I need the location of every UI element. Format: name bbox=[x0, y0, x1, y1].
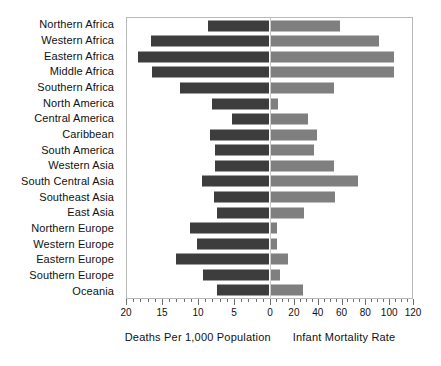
x-tick-label-left-0: 0 bbox=[267, 307, 273, 319]
x-axis-tick-labels: 2015105020406080100120 bbox=[126, 307, 413, 321]
bar-deaths-per-1000 bbox=[215, 145, 269, 156]
bar-infant-mortality-rate bbox=[270, 67, 394, 78]
x-tick-label-right-100: 100 bbox=[381, 307, 398, 319]
bar-deaths-per-1000 bbox=[210, 129, 269, 140]
plot-area bbox=[126, 17, 413, 299]
category-label: Oceania bbox=[0, 283, 120, 299]
x-axis-tick-marks bbox=[126, 299, 413, 306]
x-tick-right-20 bbox=[294, 299, 295, 305]
x-tick-left-8 bbox=[212, 299, 213, 302]
category-label: Central America bbox=[0, 111, 120, 127]
bar-infant-mortality-rate bbox=[270, 223, 277, 234]
category-label: Southern Africa bbox=[0, 80, 120, 96]
x-tick-right-50 bbox=[330, 299, 331, 302]
x-tick-label-right-60: 60 bbox=[336, 307, 347, 319]
x-tick-label-left-15: 15 bbox=[156, 307, 167, 319]
bar-deaths-per-1000 bbox=[217, 285, 269, 296]
bar-deaths-per-1000 bbox=[217, 207, 269, 218]
x-tick-left-12 bbox=[184, 299, 185, 302]
bar-infant-mortality-rate bbox=[270, 83, 334, 94]
x-tick-left-6 bbox=[227, 299, 228, 302]
category-label: Middle Africa bbox=[0, 64, 120, 80]
bar-deaths-per-1000 bbox=[197, 238, 269, 249]
x-tick-label-right-40: 40 bbox=[312, 307, 323, 319]
x-tick-left-10 bbox=[198, 299, 199, 305]
x-tick-right-35 bbox=[312, 299, 313, 302]
x-tick-right-10 bbox=[282, 299, 283, 302]
x-tick-left-19 bbox=[133, 299, 134, 302]
category-label: Northern Africa bbox=[0, 17, 120, 33]
diverging-bar-chart: Northern AfricaWestern AfricaEastern Afr… bbox=[0, 0, 441, 366]
x-tick-left-3 bbox=[248, 299, 249, 302]
bar-infant-mortality-rate bbox=[270, 191, 335, 202]
x-tick-left-18 bbox=[140, 299, 141, 302]
bar-deaths-per-1000 bbox=[151, 36, 269, 47]
x-tick-right-70 bbox=[353, 299, 354, 302]
bar-deaths-per-1000 bbox=[176, 254, 269, 265]
category-label: East Asia bbox=[0, 205, 120, 221]
x-tick-right-90 bbox=[377, 299, 378, 302]
bar-infant-mortality-rate bbox=[270, 36, 379, 47]
x-tick-right-105 bbox=[395, 299, 396, 302]
x-tick-right-15 bbox=[288, 299, 289, 302]
x-tick-left-7 bbox=[220, 299, 221, 302]
x-tick-right-65 bbox=[347, 299, 348, 302]
bar-infant-mortality-rate bbox=[270, 207, 304, 218]
bar-deaths-per-1000 bbox=[214, 191, 269, 202]
bar-deaths-per-1000 bbox=[203, 269, 269, 280]
x-tick-left-20 bbox=[126, 299, 127, 305]
bar-deaths-per-1000 bbox=[190, 223, 269, 234]
axis-caption-right: Infant Mortality Rate bbox=[293, 330, 396, 344]
category-label: Western Asia bbox=[0, 158, 120, 174]
bar-deaths-per-1000 bbox=[232, 114, 269, 125]
x-tick-right-100 bbox=[389, 299, 390, 305]
x-tick-left-16 bbox=[155, 299, 156, 302]
x-tick-left-0 bbox=[270, 299, 271, 305]
category-axis: Northern AfricaWestern AfricaEastern Afr… bbox=[0, 17, 120, 299]
x-tick-left-17 bbox=[148, 299, 149, 302]
category-label: Western Europe bbox=[0, 236, 120, 252]
x-tick-label-right-20: 20 bbox=[288, 307, 299, 319]
x-tick-right-80 bbox=[365, 299, 366, 305]
category-label: South America bbox=[0, 142, 120, 158]
x-tick-right-75 bbox=[359, 299, 360, 302]
category-label: North America bbox=[0, 95, 120, 111]
bar-infant-mortality-rate bbox=[270, 145, 314, 156]
bar-infant-mortality-rate bbox=[270, 20, 340, 31]
x-tick-label-left-5: 5 bbox=[231, 307, 237, 319]
x-tick-left-1 bbox=[263, 299, 264, 302]
x-tick-left-15 bbox=[162, 299, 163, 305]
bar-infant-mortality-rate bbox=[270, 285, 303, 296]
x-tick-right-30 bbox=[306, 299, 307, 302]
x-tick-left-2 bbox=[256, 299, 257, 302]
x-tick-left-5 bbox=[234, 299, 235, 305]
axis-caption-left: Deaths Per 1,000 Population bbox=[125, 330, 271, 344]
bar-infant-mortality-rate bbox=[270, 129, 317, 140]
x-tick-left-14 bbox=[169, 299, 170, 302]
x-tick-label-left-10: 10 bbox=[192, 307, 203, 319]
x-tick-left-11 bbox=[191, 299, 192, 302]
x-tick-right-120 bbox=[413, 299, 414, 305]
x-tick-left-9 bbox=[205, 299, 206, 302]
bar-infant-mortality-rate bbox=[270, 51, 394, 62]
x-tick-label-right-80: 80 bbox=[360, 307, 371, 319]
x-tick-right-5 bbox=[276, 299, 277, 302]
category-label: Eastern Africa bbox=[0, 48, 120, 64]
axis-captions: Deaths Per 1,000 Population Infant Morta… bbox=[126, 330, 413, 350]
bar-deaths-per-1000 bbox=[208, 20, 269, 31]
category-label: Eastern Europe bbox=[0, 252, 120, 268]
bar-deaths-per-1000 bbox=[152, 67, 269, 78]
x-tick-right-115 bbox=[407, 299, 408, 302]
bar-infant-mortality-rate bbox=[270, 238, 277, 249]
category-label: Western Africa bbox=[0, 33, 120, 49]
x-tick-right-85 bbox=[371, 299, 372, 302]
bar-deaths-per-1000 bbox=[215, 160, 269, 171]
bar-infant-mortality-rate bbox=[270, 269, 279, 280]
bar-infant-mortality-rate bbox=[270, 160, 334, 171]
x-tick-right-110 bbox=[401, 299, 402, 302]
x-tick-right-40 bbox=[318, 299, 319, 305]
bar-deaths-per-1000 bbox=[180, 83, 269, 94]
category-label: Southeast Asia bbox=[0, 189, 120, 205]
x-tick-right-55 bbox=[336, 299, 337, 302]
category-label: Northern Europe bbox=[0, 221, 120, 237]
